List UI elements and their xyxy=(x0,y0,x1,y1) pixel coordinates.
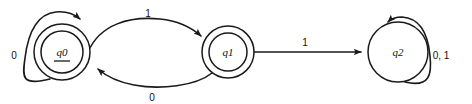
transition-q1-to-q2: 1 xyxy=(254,37,361,52)
state-node-q2[interactable]: q2 xyxy=(368,22,428,82)
transition-label-q0-to-q1: 1 xyxy=(145,8,151,19)
state-q2-label: q2 xyxy=(393,46,405,58)
automaton-canvas: 0 0, 1 1 0 1 q0 xyxy=(0,0,472,104)
transition-label-q2-self: 0, 1 xyxy=(433,50,450,61)
state-node-q1[interactable]: q1 xyxy=(202,26,254,78)
transition-label-q1-to-q0: 0 xyxy=(149,92,155,103)
automaton-diagram: 0 0, 1 1 0 1 q0 xyxy=(0,0,472,104)
state-node-q0[interactable]: q0 xyxy=(34,24,90,80)
transition-q1-to-q0: 0 xyxy=(98,69,212,103)
transition-q0-to-q1-path xyxy=(88,18,201,52)
transition-label-q1-to-q2: 1 xyxy=(302,37,308,48)
state-q0-label: q0 xyxy=(57,46,69,58)
transition-q1-to-q0-path xyxy=(98,69,212,87)
transition-label-q0-self: 0 xyxy=(11,50,17,61)
state-q1-label: q1 xyxy=(223,46,234,58)
transition-q0-to-q1: 1 xyxy=(88,8,201,52)
